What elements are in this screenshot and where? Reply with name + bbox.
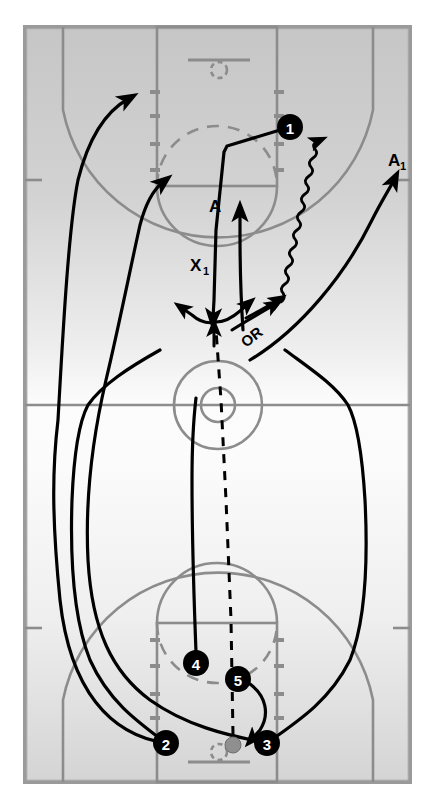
annotation-X1: X: [190, 256, 202, 275]
player-label-5: 5: [234, 672, 242, 689]
annotation-A1: A: [388, 151, 400, 170]
play-diagram-canvas: 1 4 5 2 3 A A 1 X 1: [0, 0, 434, 810]
annotation-A1-subscript: 1: [400, 160, 406, 172]
ball-icon: [225, 737, 241, 753]
player-marker-1[interactable]: 1: [277, 114, 303, 140]
player-marker-4[interactable]: 4: [183, 650, 209, 676]
player-marker-5[interactable]: 5: [225, 666, 251, 692]
player-marker-2[interactable]: 2: [153, 730, 179, 756]
player-label-3: 3: [263, 736, 271, 753]
player-label-4: 4: [192, 656, 201, 673]
annotation-X1-subscript: 1: [203, 265, 209, 277]
player-label-1: 1: [286, 120, 294, 137]
player-marker-3[interactable]: 3: [254, 730, 280, 756]
annotation-A: A: [209, 197, 221, 216]
player-label-2: 2: [162, 736, 170, 753]
basketball-court-svg: 1 4 5 2 3 A A 1 X 1: [0, 0, 434, 810]
